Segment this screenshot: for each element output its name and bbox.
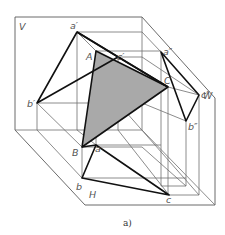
label-c-prime: c′ bbox=[117, 51, 125, 62]
plane-label-v: V bbox=[19, 21, 27, 32]
figure-caption: a) bbox=[123, 218, 132, 228]
label-a-prime: a′ bbox=[70, 20, 79, 31]
label-b-prime: b′ bbox=[27, 98, 36, 109]
label-b-dblprime: b″ bbox=[188, 121, 198, 132]
label-C: C bbox=[164, 75, 171, 86]
plane-label-h: H bbox=[89, 189, 96, 200]
label-a-dblprime: a″ bbox=[163, 46, 173, 57]
label-c: c bbox=[166, 194, 172, 205]
label-b: b bbox=[76, 181, 82, 192]
label-a: a bbox=[95, 143, 101, 154]
label-c-dblprime: c″ bbox=[201, 89, 210, 100]
label-A: A bbox=[85, 51, 93, 62]
label-B: B bbox=[72, 147, 79, 158]
projection-diagram: V W H a′ A c′ a″ b′ C c″ B a b″ b c a) bbox=[0, 0, 225, 235]
